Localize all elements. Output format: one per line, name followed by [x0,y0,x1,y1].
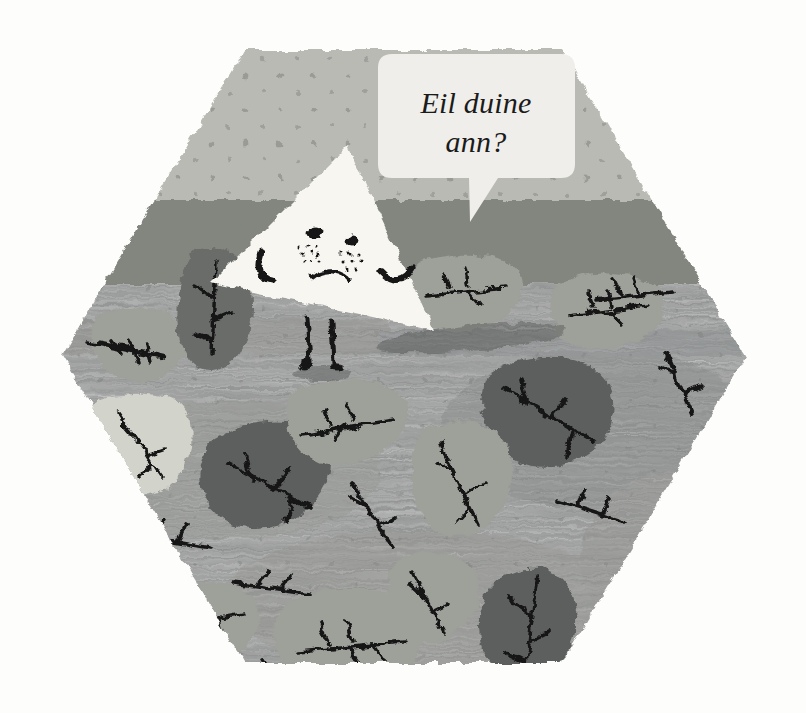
illustration-canvas: Eil duine ann? [0,0,806,713]
twig [628,610,652,640]
foot-left [299,361,313,370]
twig [700,448,712,486]
twig [682,482,722,522]
eye-left [309,226,322,239]
list-item [275,589,424,696]
twig [640,608,664,622]
leg-left [306,317,309,362]
eye-right [346,234,359,247]
foot-right [330,363,344,372]
twig [676,602,700,620]
scene-svg: Eil duine ann? [0,0,806,713]
twig [262,660,282,692]
speech-bubble-line-2: ann? [446,125,507,158]
list-item [479,568,578,684]
speech-bubble-line-1: Eil duine [420,86,532,119]
leg-right [332,322,334,365]
